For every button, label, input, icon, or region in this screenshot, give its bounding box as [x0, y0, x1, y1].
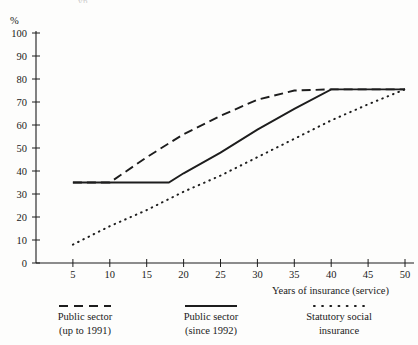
- legend-swatch-solid: [150, 299, 272, 310]
- series-line-dotted: [73, 89, 405, 244]
- x-axis-tick-label: 25: [215, 269, 226, 280]
- x-axis-tick-label: 40: [326, 269, 337, 280]
- series-line-dashed: [73, 89, 405, 182]
- y-axis-tick-label: 70: [17, 97, 28, 108]
- legend-swatch-dashed: [24, 299, 146, 310]
- legend-label-line2: (since 1992): [150, 324, 272, 338]
- y-axis-tick-label: 10: [17, 235, 28, 246]
- y-axis-tick-label: 0: [22, 258, 27, 269]
- legend-item-public-sector-since-1992: Public sector (since 1992): [150, 299, 272, 337]
- x-axis-tick-label: 45: [363, 269, 374, 280]
- y-axis-unit-label: %: [10, 15, 19, 26]
- legend-item-statutory-social-insurance: Statutory social insurance: [278, 299, 400, 337]
- y-axis-tick-label: 80: [17, 74, 28, 85]
- x-axis-tick-label: 50: [400, 269, 411, 280]
- legend-label-line2: insurance: [278, 324, 400, 338]
- x-axis-tick-label: 10: [105, 269, 116, 280]
- x-axis-tick-label: 5: [70, 269, 75, 280]
- chart-canvas: 0102030405060708090100510152025303540455…: [0, 0, 418, 300]
- x-axis-tick-label: 15: [141, 269, 152, 280]
- legend-label-line2: (up to 1991): [24, 324, 146, 338]
- legend-label-line1: Public sector: [150, 310, 272, 324]
- chart-figure: yp 0102030405060708090100510152025303540…: [0, 0, 418, 345]
- y-axis-tick-label: 50: [17, 143, 28, 154]
- y-axis-tick-label: 40: [17, 166, 28, 177]
- y-axis-tick-label: 100: [11, 28, 27, 39]
- x-axis-title: Years of insurance (service): [272, 285, 390, 297]
- y-axis-tick-label: 30: [17, 189, 28, 200]
- x-axis-tick-label: 20: [178, 269, 189, 280]
- axes-group: 0102030405060708090100510152025303540455…: [11, 28, 414, 280]
- legend-item-public-sector-up-to-1991: Public sector (up to 1991): [24, 299, 146, 337]
- chart-legend: Public sector (up to 1991) Public sector…: [0, 299, 418, 345]
- series-group: [73, 89, 405, 244]
- legend-swatch-dotted: [278, 299, 400, 310]
- y-axis-tick-label: 60: [17, 120, 28, 131]
- y-axis-tick-label: 90: [17, 51, 28, 62]
- legend-label-line1: Public sector: [24, 310, 146, 324]
- x-axis-tick-label: 30: [252, 269, 263, 280]
- legend-label-line1: Statutory social: [278, 310, 400, 324]
- x-axis-tick-label: 35: [289, 269, 300, 280]
- series-line-solid: [73, 89, 405, 182]
- y-axis-tick-label: 20: [17, 212, 28, 223]
